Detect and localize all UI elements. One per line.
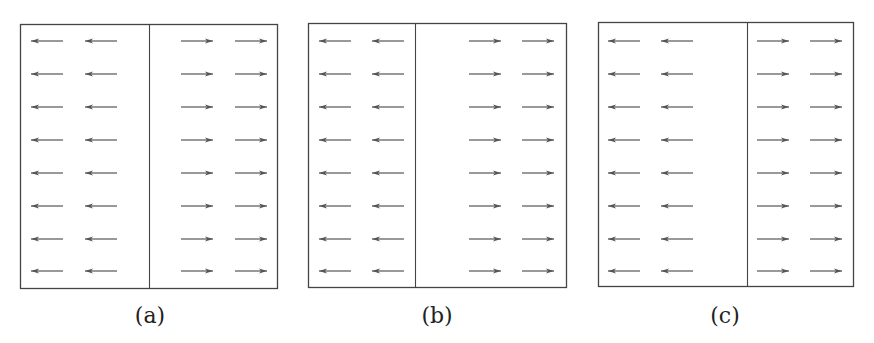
arrow-right-icon xyxy=(810,71,842,76)
arrow-right-icon xyxy=(181,236,213,241)
arrow-right-icon xyxy=(469,71,501,76)
arrow-left-icon xyxy=(372,137,404,142)
arrow-left-icon xyxy=(661,170,693,175)
panel-c xyxy=(599,22,854,287)
panel-label-a: (a) xyxy=(110,303,190,328)
arrow-left-icon xyxy=(372,104,404,109)
panel-b xyxy=(309,23,567,288)
arrow-left-icon xyxy=(372,236,404,241)
panel-frame xyxy=(309,24,567,288)
arrow-right-icon xyxy=(757,38,789,43)
arrow-left-icon xyxy=(608,38,640,43)
arrow-right-icon xyxy=(235,170,267,175)
arrow-left-icon xyxy=(608,268,640,273)
panel-frame xyxy=(599,23,854,287)
arrow-right-icon xyxy=(522,38,554,43)
arrow-left-icon xyxy=(319,137,351,142)
arrow-left-icon xyxy=(319,236,351,241)
arrow-left-icon xyxy=(372,203,404,208)
arrow-left-icon xyxy=(319,203,351,208)
arrow-right-icon xyxy=(469,38,501,43)
panel-label-c: (c) xyxy=(685,303,765,328)
arrow-left-icon xyxy=(319,38,351,43)
arrow-right-icon xyxy=(757,137,789,142)
arrow-right-icon xyxy=(757,236,789,241)
arrow-right-icon xyxy=(757,203,789,208)
arrow-right-icon xyxy=(469,170,501,175)
arrow-left-icon xyxy=(31,170,63,175)
arrow-right-icon xyxy=(810,104,842,109)
arrow-left-icon xyxy=(608,203,640,208)
arrow-left-icon xyxy=(85,268,117,273)
arrow-right-icon xyxy=(757,104,789,109)
arrow-right-icon xyxy=(757,170,789,175)
arrow-right-icon xyxy=(522,203,554,208)
arrow-right-icon xyxy=(181,38,213,43)
arrow-left-icon xyxy=(608,71,640,76)
panel-label-b: (b) xyxy=(397,303,477,328)
panel-a xyxy=(21,24,278,289)
arrow-left-icon xyxy=(372,268,404,273)
arrow-right-icon xyxy=(810,268,842,273)
arrow-left-icon xyxy=(85,203,117,208)
arrow-right-icon xyxy=(235,203,267,208)
arrow-right-icon xyxy=(757,71,789,76)
arrow-left-icon xyxy=(31,104,63,109)
arrow-left-icon xyxy=(85,104,117,109)
arrow-left-icon xyxy=(608,170,640,175)
arrow-right-icon xyxy=(469,104,501,109)
arrow-right-icon xyxy=(235,38,267,43)
arrow-left-icon xyxy=(661,38,693,43)
arrow-left-icon xyxy=(319,104,351,109)
arrow-left-icon xyxy=(661,104,693,109)
arrow-left-icon xyxy=(661,137,693,142)
arrow-left-icon xyxy=(661,236,693,241)
arrow-right-icon xyxy=(181,203,213,208)
arrow-left-icon xyxy=(372,38,404,43)
arrow-left-icon xyxy=(31,137,63,142)
arrow-right-icon xyxy=(810,38,842,43)
arrow-left-icon xyxy=(319,268,351,273)
arrow-right-icon xyxy=(757,268,789,273)
arrow-left-icon xyxy=(608,104,640,109)
arrow-left-icon xyxy=(608,137,640,142)
arrow-left-icon xyxy=(85,170,117,175)
arrow-right-icon xyxy=(235,236,267,241)
arrow-right-icon xyxy=(181,268,213,273)
arrow-left-icon xyxy=(31,236,63,241)
arrow-right-icon xyxy=(181,170,213,175)
arrow-left-icon xyxy=(372,170,404,175)
arrow-left-icon xyxy=(608,236,640,241)
arrow-left-icon xyxy=(661,203,693,208)
arrow-right-icon xyxy=(181,137,213,142)
arrow-right-icon xyxy=(810,203,842,208)
arrow-left-icon xyxy=(85,236,117,241)
arrow-right-icon xyxy=(235,71,267,76)
arrow-left-icon xyxy=(31,38,63,43)
arrow-left-icon xyxy=(661,71,693,76)
arrow-right-icon xyxy=(522,137,554,142)
arrow-right-icon xyxy=(810,170,842,175)
arrow-right-icon xyxy=(522,71,554,76)
arrow-left-icon xyxy=(319,71,351,76)
arrow-right-icon xyxy=(522,236,554,241)
arrow-left-icon xyxy=(31,268,63,273)
arrow-left-icon xyxy=(31,203,63,208)
arrow-right-icon xyxy=(469,236,501,241)
arrow-right-icon xyxy=(181,104,213,109)
arrow-right-icon xyxy=(235,137,267,142)
arrow-right-icon xyxy=(522,268,554,273)
arrow-right-icon xyxy=(469,268,501,273)
arrow-right-icon xyxy=(810,137,842,142)
arrow-right-icon xyxy=(469,203,501,208)
arrow-left-icon xyxy=(319,170,351,175)
arrow-right-icon xyxy=(235,268,267,273)
arrow-left-icon xyxy=(372,71,404,76)
arrow-left-icon xyxy=(661,268,693,273)
arrow-left-icon xyxy=(85,38,117,43)
arrow-left-icon xyxy=(31,71,63,76)
arrow-right-icon xyxy=(235,104,267,109)
arrow-right-icon xyxy=(522,104,554,109)
arrow-right-icon xyxy=(810,236,842,241)
arrow-left-icon xyxy=(85,137,117,142)
